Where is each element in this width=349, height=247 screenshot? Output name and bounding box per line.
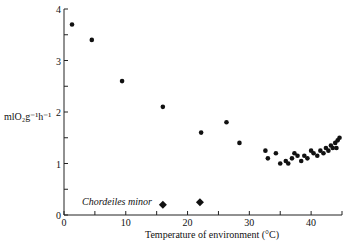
circle-marker — [290, 156, 295, 161]
x-tick-label: 40 — [306, 217, 316, 228]
y-tick-label: 2 — [56, 107, 61, 118]
x-tick-label: 30 — [244, 217, 254, 228]
circle-marker — [161, 105, 166, 110]
circle-marker — [237, 141, 242, 146]
circle-marker — [311, 151, 316, 156]
circle-marker — [321, 151, 326, 156]
circle-marker — [305, 156, 310, 161]
circle-marker — [286, 161, 291, 166]
x-tick-label: 20 — [183, 217, 193, 228]
circle-marker — [295, 153, 300, 158]
y-tick-label: 0 — [56, 210, 61, 221]
circle-marker — [326, 148, 331, 153]
diamond-marker — [196, 198, 204, 206]
circle-marker — [278, 161, 283, 166]
circle-marker — [90, 38, 95, 43]
circle-marker — [224, 120, 229, 125]
circle-marker — [299, 159, 304, 164]
circle-marker — [120, 79, 125, 84]
scatter-plot: 01020304001234 — [0, 0, 349, 247]
x-tick-label: 10 — [121, 217, 131, 228]
circle-marker — [199, 130, 204, 135]
circle-marker — [274, 151, 279, 156]
species-annotation: Chordeiles minor — [82, 196, 152, 207]
circle-marker — [334, 146, 339, 151]
circle-marker — [263, 148, 268, 153]
circle-marker — [266, 156, 271, 161]
diamond-marker — [159, 201, 167, 209]
y-tick-label: 1 — [56, 159, 61, 170]
circle-marker — [70, 22, 75, 27]
circle-marker — [315, 153, 320, 158]
circle-marker — [337, 135, 342, 140]
x-axis-label: Temperature of environment (°C) — [145, 229, 279, 240]
y-axis-label: mlO₂g⁻¹h⁻¹ — [4, 111, 51, 122]
y-tick-label: 4 — [56, 4, 61, 15]
y-tick-label: 3 — [56, 56, 61, 67]
x-tick-label: 0 — [62, 217, 67, 228]
